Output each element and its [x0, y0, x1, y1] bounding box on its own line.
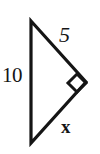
side-label-bottom: x: [61, 117, 71, 136]
geometry-figure: 10 5 x: [0, 0, 100, 154]
side-label-top: 5: [59, 24, 70, 46]
side-label-left: 10: [2, 65, 22, 86]
